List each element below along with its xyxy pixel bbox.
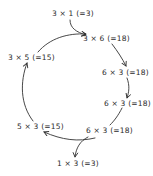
- arrow-n7-to-n8: [22, 63, 33, 121]
- node-6x3-b: 6 × 3 (=18): [104, 100, 151, 108]
- node-6x3-a: 6 × 3 (=18): [102, 69, 149, 77]
- node-6x3-c: 6 × 3 (=18): [86, 127, 133, 135]
- arrow-n8-to-n2: [38, 34, 86, 52]
- cycle-diagram: 3 × 1 (=3) 3 × 6 (=18) 6 × 3 (=18) 6 × 3…: [0, 0, 153, 176]
- arrow-n4-to-n5: [110, 108, 122, 125]
- node-3x1: 3 × 1 (=3): [52, 10, 94, 18]
- arrow-n2-to-n3: [112, 44, 126, 66]
- arrow-n3-to-n4: [127, 78, 129, 98]
- arrow-n1-to-n2: [70, 20, 86, 35]
- node-3x6: 3 × 6 (=18): [83, 35, 130, 43]
- node-1x3: 1 × 3 (=3): [57, 160, 99, 168]
- diagram-arrows: [0, 0, 153, 176]
- node-5x3: 5 × 3 (=15): [17, 123, 64, 131]
- node-3x5: 3 × 5 (=15): [8, 54, 55, 62]
